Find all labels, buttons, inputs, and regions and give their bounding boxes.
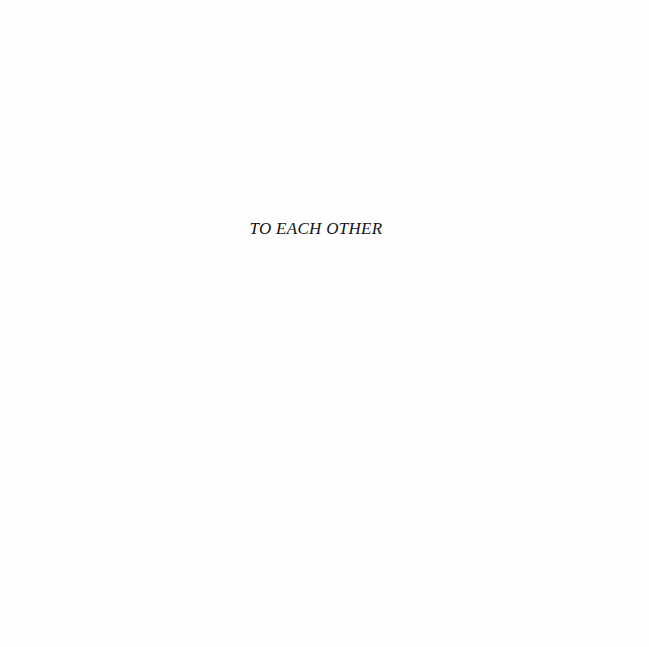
dedication-text: TO EACH OTHER bbox=[0, 219, 632, 239]
book-page: TO EACH OTHER bbox=[0, 0, 649, 647]
